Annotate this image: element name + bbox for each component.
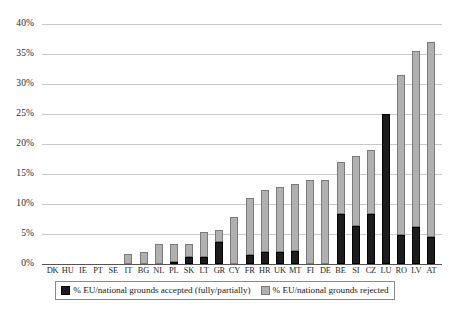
y-axis-tick-label: 5% [21, 229, 34, 239]
bar-slot [60, 24, 75, 264]
x-axis-tick-label: CY [227, 264, 242, 278]
y-axis-tick-label: 10% [16, 199, 34, 209]
x-axis-tick-label: DE [318, 264, 333, 278]
x-axis-tick-label: MT [288, 264, 303, 278]
bar-segment-accepted [200, 257, 208, 264]
x-axis-tick-label: LV [409, 264, 424, 278]
bar-segment-accepted [352, 226, 360, 264]
y-axis-tick-label: 30% [16, 79, 34, 89]
bar-segment-rejected [367, 150, 375, 214]
bar-segment-rejected [337, 162, 345, 214]
x-axis-labels: DKHUIEPTSEITBGNLPLSKLTGRCYFRHRUKMTFIDEBE… [42, 264, 442, 278]
bar-slot [166, 24, 181, 264]
x-axis-tick-label: LT [197, 264, 212, 278]
bar-slot [181, 24, 196, 264]
x-axis-tick-label: SK [181, 264, 196, 278]
bar-it [124, 254, 132, 264]
x-axis-tick-label: PL [166, 264, 181, 278]
y-axis-tick-label: 40% [16, 19, 34, 29]
bar-group [42, 24, 442, 264]
bar-segment-rejected [140, 252, 148, 264]
bar-segment-rejected [397, 75, 405, 235]
bar-segment-rejected [352, 156, 360, 226]
bar-segment-accepted [412, 227, 420, 264]
legend-swatch-rejected-icon [261, 286, 270, 295]
bar-segment-rejected [427, 42, 435, 237]
bar-lu [382, 114, 390, 264]
bar-slot [257, 24, 272, 264]
bar-at [427, 42, 435, 264]
bar-slot [333, 24, 348, 264]
x-axis-tick-label: RO [394, 264, 409, 278]
bar-slot [227, 24, 242, 264]
bar-segment-accepted [291, 251, 299, 264]
bar-slot [106, 24, 121, 264]
bar-slot [90, 24, 105, 264]
bar-sk [185, 244, 193, 264]
x-axis-tick-label: HR [257, 264, 272, 278]
x-axis-tick-label: BE [333, 264, 348, 278]
bar-slot [151, 24, 166, 264]
stacked-bar-chart: 0%5%10%15%20%25%30%35%40% DKHUIEPTSEITBG… [0, 0, 450, 312]
bar-segment-rejected [246, 198, 254, 255]
bar-segment-accepted [382, 114, 390, 264]
bar-slot [75, 24, 90, 264]
bar-segment-rejected [306, 180, 314, 264]
bar-segment-rejected [321, 180, 329, 264]
bar-segment-accepted [246, 255, 254, 264]
bar-slot [45, 24, 60, 264]
bar-segment-rejected [230, 217, 238, 264]
bar-segment-rejected [185, 244, 193, 258]
bar-segment-rejected [200, 232, 208, 257]
x-axis-tick-label: IE [75, 264, 90, 278]
x-axis-tick-label: IT [121, 264, 136, 278]
bar-segment-accepted [337, 214, 345, 264]
y-axis-tick-label: 15% [16, 169, 34, 179]
x-axis-tick-label: CZ [363, 264, 378, 278]
bar-slot [409, 24, 424, 264]
bar-uk [276, 187, 284, 264]
bar-fr [246, 198, 254, 264]
bar-de [321, 180, 329, 264]
bar-si [352, 156, 360, 264]
y-axis-labels: 0%5%10%15%20%25%30%35%40% [0, 24, 38, 264]
x-axis-tick-label: AT [424, 264, 439, 278]
legend-entry: % EU/national grounds rejected [261, 286, 389, 295]
bar-hr [261, 190, 269, 264]
bar-slot [288, 24, 303, 264]
bar-cz [367, 150, 375, 264]
x-axis-tick-label: NL [151, 264, 166, 278]
bar-bg [140, 252, 148, 264]
bar-segment-rejected [276, 187, 284, 252]
chart-legend: % EU/national grounds accepted (fully/pa… [55, 281, 395, 300]
bar-segment-rejected [215, 230, 223, 242]
bar-cy [230, 217, 238, 264]
x-axis-tick-label: HU [60, 264, 75, 278]
bar-fi [306, 180, 314, 264]
bar-slot [363, 24, 378, 264]
bar-gr [215, 230, 223, 264]
y-axis-tick-label: 20% [16, 139, 34, 149]
bar-slot [121, 24, 136, 264]
x-axis-tick-label: FI [303, 264, 318, 278]
plot-area [42, 24, 442, 264]
bar-slot [303, 24, 318, 264]
x-axis-tick-label: DK [45, 264, 60, 278]
bar-segment-accepted [261, 252, 269, 264]
bar-ro [397, 75, 405, 264]
bar-slot [197, 24, 212, 264]
legend-label: % EU/national grounds rejected [273, 286, 389, 295]
legend-entry: % EU/national grounds accepted (fully/pa… [61, 286, 250, 295]
bar-mt [291, 184, 299, 264]
bar-slot [378, 24, 393, 264]
bar-segment-rejected [124, 254, 132, 264]
bar-segment-rejected [170, 244, 178, 261]
bar-segment-accepted [276, 252, 284, 264]
bar-segment-accepted [427, 237, 435, 264]
bar-lt [200, 232, 208, 264]
legend-swatch-accepted-icon [61, 286, 70, 295]
bar-segment-rejected [261, 190, 269, 252]
bar-pl [170, 244, 178, 264]
bar-slot [136, 24, 151, 264]
bar-slot [318, 24, 333, 264]
